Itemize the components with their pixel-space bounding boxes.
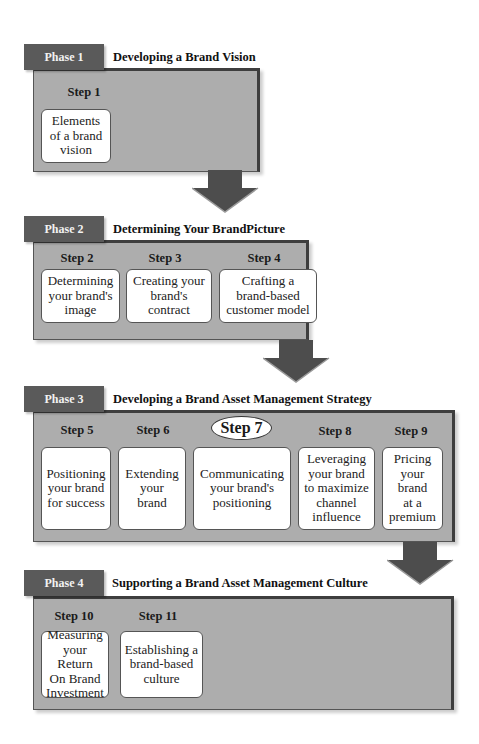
step-oval-highlight: Step 7 — [211, 416, 272, 440]
phase-panel: Step 2 Determining your brand's image St… — [33, 240, 309, 340]
phase-title: Determining Your BrandPicture — [113, 222, 285, 237]
phase-panel: Step 10 Measuring your Return On Brand I… — [33, 596, 454, 710]
phase-tab: Phase 4 — [24, 570, 104, 596]
phase-title: Developing a Brand Asset Management Stra… — [113, 392, 372, 407]
step-label: Step 9 — [376, 424, 446, 439]
step-box: Leveraging your brand to maximize channe… — [298, 447, 375, 530]
phase-panel: Step 5 Positioning your brand for succes… — [33, 410, 455, 542]
step-label: Step 4 — [229, 251, 299, 266]
step-box: Creating your brand's contract — [126, 269, 212, 323]
step-label: Step 6 — [118, 423, 188, 438]
step-label: Step 3 — [130, 251, 200, 266]
step-box: Extending your brand — [118, 447, 186, 530]
step-box: Measuring your Return On Brand Investmen… — [41, 631, 109, 698]
phase-tab: Phase 1 — [24, 44, 104, 70]
step-label: Step 5 — [42, 423, 112, 438]
step-box: Establishing a brand-based culture — [120, 631, 203, 698]
step-label: Step 10 — [38, 609, 110, 624]
phase-tab: Phase 2 — [24, 216, 104, 242]
step-label: Step 11 — [118, 609, 198, 624]
phase-tab: Phase 3 — [24, 386, 104, 412]
step-box: Positioning your brand for success — [41, 447, 111, 530]
step-label: Step 8 — [300, 424, 370, 439]
step-box: Determining your brand's image — [41, 269, 120, 323]
phase-panel: Step 1 Elements of a brand vision — [33, 68, 260, 172]
step-label: Step 2 — [42, 251, 112, 266]
step-box: Crafting a brand-based customer model — [219, 269, 317, 323]
phase-title: Supporting a Brand Asset Management Cult… — [112, 576, 368, 591]
step-label: Step 1 — [44, 85, 124, 100]
step-box: Communicating your brand's positioning — [193, 447, 291, 530]
down-arrow-icon — [387, 542, 457, 586]
step-box: Pricing your brand at a premium — [382, 447, 443, 530]
down-arrow-icon — [263, 340, 333, 384]
step-box: Elements of a brand vision — [41, 109, 111, 163]
down-arrow-icon — [192, 170, 262, 214]
phase-title: Developing a Brand Vision — [113, 50, 256, 65]
